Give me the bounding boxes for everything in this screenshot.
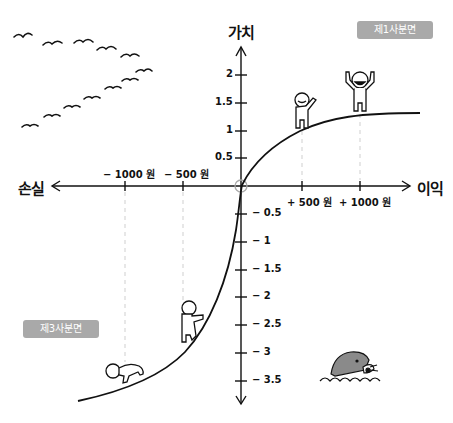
- y-tick-label: 2: [226, 68, 233, 79]
- quadrant-1-badge: 제1사분면: [357, 21, 433, 39]
- value-function-diagram: 가치 이익 손실 − 1000 원 − 500 원 + 500 원 + 1000…: [0, 0, 453, 423]
- x-tick-label: + 1000 원: [339, 194, 391, 209]
- y-tick-label: − 2: [252, 290, 271, 301]
- quadrant-3-badge: 제3사분면: [23, 320, 99, 338]
- y-tick-label: − 2.5: [252, 318, 282, 329]
- y-tick-label: 1: [226, 124, 233, 135]
- y-tick-label: 1.5: [215, 96, 233, 107]
- waving-person-icon: [295, 93, 316, 128]
- x-tick-label: − 500 원: [164, 166, 209, 181]
- birds-icon: [14, 33, 152, 127]
- value-curve: [78, 113, 420, 401]
- diagram-canvas: [0, 0, 453, 423]
- y-tick-label: 0.5: [215, 151, 233, 162]
- mole-icon: [320, 352, 380, 381]
- x-tick-label: + 500 원: [287, 194, 332, 209]
- crawling-person-icon: [106, 364, 143, 383]
- y-tick-label: − 3.5: [252, 374, 282, 385]
- cheering-person-icon: [346, 72, 374, 111]
- x-axis: [52, 181, 410, 191]
- y-tick-label: − 3: [252, 346, 271, 357]
- y-axis-label: 가치: [228, 21, 254, 42]
- x-tick-label: − 1000 원: [103, 166, 155, 181]
- x-axis-negative-label: 손실: [18, 177, 44, 198]
- y-tick-label: − 1.5: [252, 263, 282, 274]
- y-tick-label: − 0.5: [252, 207, 282, 218]
- y-tick-label: − 1: [252, 235, 271, 246]
- x-axis-positive-label: 이익: [417, 177, 443, 198]
- climbing-person-icon: [182, 301, 203, 342]
